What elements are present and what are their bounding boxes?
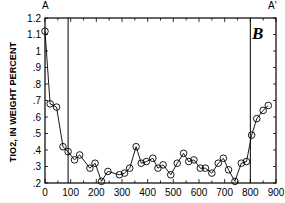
x-tick-label: 300: [114, 187, 131, 198]
y-tick-label: .4: [33, 145, 42, 156]
x-tick-label: 900: [268, 187, 285, 198]
y-tick-label: .7: [33, 95, 42, 106]
x-tick-label: 400: [139, 187, 156, 198]
y-tick-label: 1: [35, 46, 41, 57]
x-tick-label: 100: [62, 187, 79, 198]
y-tick-label: .6: [33, 112, 42, 123]
x-tick-label: 700: [216, 187, 233, 198]
x-tick-label: 200: [88, 187, 105, 198]
corner-label-a-prime: A': [268, 0, 277, 11]
y-tick-label: .9: [33, 62, 42, 73]
panel-label: B: [252, 24, 263, 44]
y-tick-label: 1.2: [27, 13, 41, 24]
x-tick-label: 600: [191, 187, 208, 198]
tio2-line-chart: 0100200300400500600700800900.2.3.4.5.6.7…: [0, 0, 285, 203]
y-tick-label: .8: [33, 79, 42, 90]
x-tick-label: 800: [242, 187, 259, 198]
y-tick-label: .3: [33, 161, 42, 172]
y-tick-label: 1.1: [27, 29, 41, 40]
x-tick-label: 500: [165, 187, 182, 198]
y-tick-label: .5: [33, 128, 42, 139]
corner-label-a: A: [42, 0, 49, 11]
y-axis-label: TIO2, IN WEIGHT PERCENT: [8, 27, 18, 177]
x-tick-label: 0: [42, 187, 48, 198]
y-tick-label: .2: [33, 178, 42, 189]
data-line: [45, 31, 268, 181]
